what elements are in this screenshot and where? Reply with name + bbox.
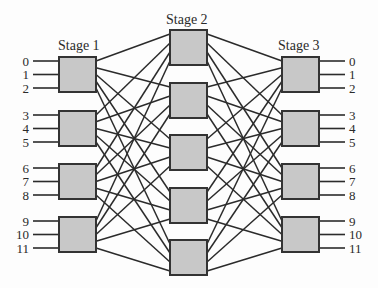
link-s1-3-s2-2 xyxy=(96,166,170,235)
link-s1-3-s2-3 xyxy=(96,219,170,241)
input-label-8: 8 xyxy=(23,188,30,203)
stage-1-switch-1 xyxy=(59,111,96,146)
output-label-5: 5 xyxy=(349,135,356,150)
stage-1-switch-2 xyxy=(59,164,96,199)
stage-3-switch-0 xyxy=(282,57,319,92)
stage-2-title: Stage 2 xyxy=(166,12,208,27)
link-s1-0-s2-0 xyxy=(96,34,170,61)
input-label-5: 5 xyxy=(23,135,30,150)
stage-2-switch-1 xyxy=(170,83,207,118)
link-s1-1-s2-0 xyxy=(96,43,170,115)
link-s2-3-s3-3 xyxy=(207,219,282,241)
link-s2-2-s3-2 xyxy=(207,157,282,182)
input-label-2: 2 xyxy=(23,81,30,96)
stage-3-switch-2 xyxy=(282,164,319,199)
link-s2-4-s3-0 xyxy=(207,88,282,244)
stage-1-switch-3 xyxy=(59,217,96,252)
link-s2-0-s3-0 xyxy=(207,34,282,61)
stage-2-switch-2 xyxy=(170,135,207,170)
switch-boxes xyxy=(59,30,319,275)
stage-2-switch-0 xyxy=(170,30,207,65)
output-label-8: 8 xyxy=(349,188,356,203)
network-svg: Stage 1 Stage 2 Stage 3 0123456789101101… xyxy=(0,0,378,288)
stage-3-title: Stage 3 xyxy=(278,38,320,53)
stage-1-title: Stage 1 xyxy=(58,38,100,53)
stage-1-switch-0 xyxy=(59,57,96,92)
stage-3-switch-3 xyxy=(282,217,319,252)
link-s1-2-s2-2 xyxy=(96,157,170,182)
stage-3-switch-1 xyxy=(282,111,319,146)
link-s2-3-s3-0 xyxy=(207,81,282,192)
clos-network-diagram: Stage 1 Stage 2 Stage 3 0123456789101101… xyxy=(0,0,378,288)
link-s1-0-s2-4 xyxy=(96,88,170,244)
stage-2-switch-4 xyxy=(170,240,207,275)
input-label-11: 11 xyxy=(16,241,29,256)
stage-2-switch-3 xyxy=(170,188,207,223)
link-s2-1-s3-1 xyxy=(207,96,282,122)
output-label-2: 2 xyxy=(349,81,356,96)
output-label-11: 11 xyxy=(349,241,362,256)
link-s2-0-s3-1 xyxy=(207,43,282,115)
